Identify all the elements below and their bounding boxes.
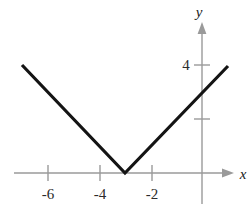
y-axis-arrowhead: [198, 22, 207, 34]
x-tick-label-minus2: -2: [146, 186, 159, 202]
y-axis-name-label: y: [194, 4, 203, 20]
x-tick-label-minus6: -6: [42, 186, 55, 202]
x-axis-arrowhead: [222, 169, 234, 178]
coordinate-plane: -6 -4 -2 4 y x: [0, 0, 250, 215]
x-tick-label-minus4: -4: [94, 186, 107, 202]
x-axis-name-label: x: [239, 166, 247, 182]
graph-figure: -6 -4 -2 4 y x: [0, 0, 250, 215]
y-tick-label-4: 4: [182, 57, 190, 73]
y-axis: [198, 22, 207, 204]
